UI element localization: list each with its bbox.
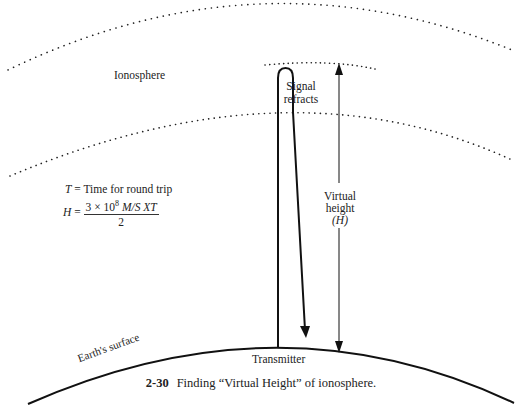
virtual-height-arrowhead-up <box>335 63 343 75</box>
height-formula: H = 3 × 108 M/S XT 2 <box>63 199 159 228</box>
virtual-height-label: Virtual height (H) <box>318 190 362 226</box>
signal-arrowhead-down <box>300 326 310 338</box>
signal-label-line1: Signal <box>280 80 322 93</box>
h-numerator: 3 × 108 M/S XT <box>84 199 159 215</box>
transmitter-label: Transmitter <box>252 353 305 366</box>
h-fraction: 3 × 108 M/S XT 2 <box>84 199 159 228</box>
signal-refracts-label: Signal refracts <box>280 80 322 105</box>
figure-number: 2-30 <box>146 376 169 390</box>
h-equals: = <box>71 206 83 218</box>
t-definition-text: = Time for round trip <box>71 183 172 195</box>
time-definition: T = Time for round trip <box>65 183 172 195</box>
signal-path <box>278 68 305 348</box>
figure-caption: 2-30Finding “Virtual Height” of ionosphe… <box>0 376 522 391</box>
virtual-label-line3: (H) <box>318 214 362 226</box>
virtual-label-line1: Virtual <box>318 190 362 202</box>
figure-caption-text: Finding “Virtual Height” of ionosphere. <box>177 376 377 390</box>
virtual-label-line2: height <box>318 202 362 214</box>
signal-label-line2: refracts <box>280 93 322 106</box>
ionosphere-lower-boundary <box>10 113 512 176</box>
numerator-units: M/S XT <box>119 201 157 213</box>
numerator-coefficient: 3 × 10 <box>86 201 116 213</box>
h-denominator: 2 <box>84 215 159 228</box>
ionosphere-upper-boundary <box>8 4 512 70</box>
ionosphere-label: Ionosphere <box>114 69 165 82</box>
